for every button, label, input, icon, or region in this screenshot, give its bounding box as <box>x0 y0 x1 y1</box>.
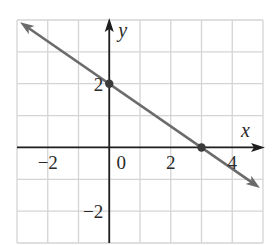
coordinate-plane: xy −20242−2 <box>0 0 277 245</box>
y-tick-label: −2 <box>83 201 103 222</box>
grid <box>17 20 263 243</box>
x-tick-label: 4 <box>228 152 238 173</box>
x-axis-label: x <box>240 119 250 141</box>
intercept-point <box>105 80 113 88</box>
y-axis-label: y <box>116 19 127 42</box>
x-tick-label: −2 <box>38 152 58 173</box>
line-arrow-start-icon <box>20 22 34 34</box>
y-tick-label: 2 <box>94 74 104 95</box>
line-arrow-end-icon <box>246 176 260 188</box>
x-tick-label: 0 <box>117 152 127 173</box>
x-tick-label: 2 <box>166 152 176 173</box>
intercept-point <box>197 143 205 151</box>
